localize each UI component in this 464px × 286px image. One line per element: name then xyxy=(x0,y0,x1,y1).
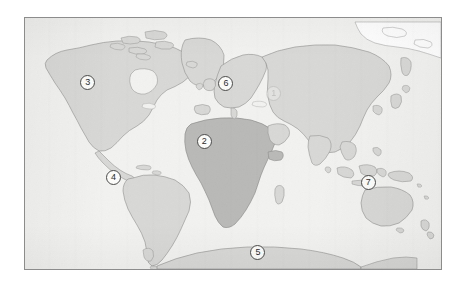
scan-grain-overlay xyxy=(25,18,441,269)
world-map-graphic xyxy=(25,18,441,269)
world-map-figure: 1234567 xyxy=(0,0,464,286)
marker-asia[interactable]: 1 xyxy=(266,86,281,101)
marker-oceania[interactable]: 7 xyxy=(361,175,376,190)
map-frame: 1234567 xyxy=(24,17,442,270)
